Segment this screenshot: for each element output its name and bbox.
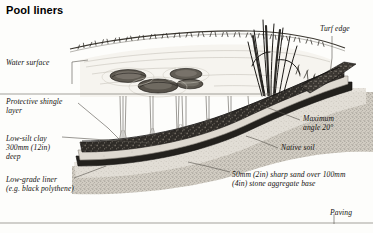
label-sand-and-aggregate-base: 50mm (2in) sharp sand over 100mm (4in) s… xyxy=(232,170,346,188)
label-native-soil: Native soil xyxy=(281,143,315,152)
figure-title: Pool liners xyxy=(6,4,63,16)
label-turf-edge: Turf edge xyxy=(320,24,350,33)
label-protective-shingle-layer: Protective shingle layer xyxy=(6,97,63,115)
label-maximum-angle: Maximum angle 20° xyxy=(303,114,334,132)
label-water-surface: Water surface xyxy=(6,58,49,67)
label-paving: Paving xyxy=(330,208,352,217)
label-low-grade-liner: Low-grade liner (e.g. black polythene) xyxy=(6,175,74,193)
figure-canvas: Pool liners Water surface Protective shi… xyxy=(0,0,373,233)
label-low-silt-clay: Low-silt clay 300mm (12in) deep xyxy=(6,134,50,162)
